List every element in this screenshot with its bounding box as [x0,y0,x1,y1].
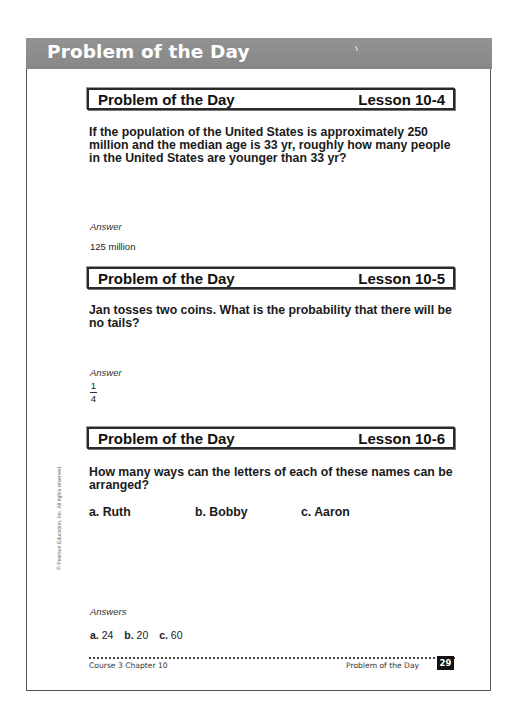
answer-key-b: b. [124,629,133,641]
answer-value-a: 24 [102,629,114,641]
answer-label: Answer [90,221,122,232]
answer-label: Answer [90,367,122,378]
page-number-badge: 29 [437,656,454,670]
problem-header-lesson-10-6: Problem of the Day Lesson 10-6 [87,427,455,449]
answer-fraction: 1 4 [90,381,97,404]
copyright-notice: © Pearson Education, Inc. All rights res… [56,466,62,570]
fraction-denominator: 4 [91,394,96,404]
problem-header-lesson-10-4: Problem of the Day Lesson 10-4 [87,88,455,110]
answers-label: Answers [90,606,126,617]
choice-b: b. Bobby [195,505,248,519]
lesson-label: Lesson 10-6 [358,430,445,447]
footer-section-name: Problem of the Day [346,661,419,670]
answer-key-a: a. [90,629,99,641]
choice-c: c. Aaron [301,505,350,519]
footer-divider [89,657,455,659]
choice-a: a. Ruth [89,505,131,519]
problem-question: Jan tosses two coins. What is the probab… [89,304,459,330]
fraction-numerator: 1 [91,381,96,391]
problem-question: If the population of the United States i… [89,126,459,165]
problem-header-lesson-10-5: Problem of the Day Lesson 10-5 [87,267,455,289]
lesson-label: Lesson 10-4 [358,91,445,108]
problem-header-title: Problem of the Day [98,430,235,447]
answer-value: 125 million [90,241,135,252]
problem-header-title: Problem of the Day [98,91,235,108]
section-title: Problem of the Day [47,41,250,62]
lesson-label: Lesson 10-5 [358,270,445,287]
answer-value-c: 60 [171,629,183,641]
problem-question: How many ways can the letters of each of… [89,466,459,492]
answer-key-c: c. [159,629,168,641]
problem-header-title: Problem of the Day [98,270,235,287]
answer-value-b: 20 [137,629,149,641]
footer-course-chapter: Course 3 Chapter 10 [89,661,168,670]
answers-list: a. 24 b. 20 c. 60 [90,629,191,641]
